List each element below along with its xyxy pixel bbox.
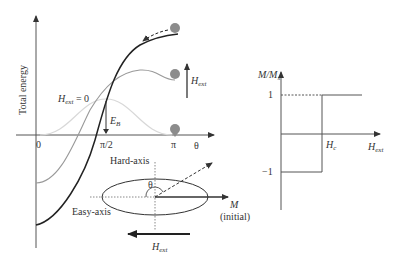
hysteresis-plot: M/Ms 1 −1 Hc Hext [257,69,384,210]
svg-text:Hext: Hext [151,241,168,254]
svg-text:M/Ms: M/Ms [257,69,280,82]
tick-pi: π [171,139,176,150]
svg-text:EB: EB [109,115,121,128]
svg-text:−1: −1 [262,166,273,177]
theta-axis-label: θ [194,140,199,151]
m-rotated-arrow [155,163,212,197]
ball-top [170,23,180,33]
svg-text:(initial): (initial) [220,211,250,223]
svg-text:M: M [229,199,239,210]
easy-axis-label: Easy-axis [72,206,111,217]
easy-axis-inset: θ Hard-axis Easy-axis M (initial) Hext [72,155,250,254]
svg-text:1: 1 [268,89,273,100]
tick-0: 0 [36,139,41,150]
ball-bottom [170,124,180,134]
tick-pi-half: π/2 [100,139,113,150]
svg-text:θ: θ [148,179,153,190]
svg-text:Hext: Hext [190,75,207,88]
stoner-wohlfarth-diagram: Hext EB Hext = 0 Total energy 0 π/2 π θ … [0,0,400,259]
hard-axis-label: Hard-axis [110,155,150,166]
energy-plot: Hext EB Hext = 0 Total energy 0 π/2 π θ [16,16,214,248]
svg-text:Hc: Hc [325,139,337,152]
hext-zero-label: Hext = 0 [57,93,89,106]
energy-y-label: Total energy [17,65,28,115]
svg-text:Hext: Hext [367,141,384,154]
ball-middle [170,69,180,79]
